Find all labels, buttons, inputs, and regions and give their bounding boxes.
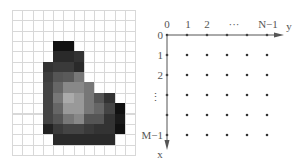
sample-point — [186, 114, 189, 117]
sample-point — [266, 94, 269, 97]
sample-point — [226, 114, 229, 117]
row-label-ellipsis: ⋮ — [150, 91, 161, 103]
sample-point — [266, 54, 269, 57]
sample-point — [266, 134, 269, 137]
sample-point — [186, 54, 189, 57]
sample-point — [186, 94, 189, 97]
sample-point — [246, 114, 249, 117]
row-label-m-minus-1: M−1 — [142, 129, 163, 141]
y-axis-arrow-icon — [274, 33, 284, 38]
sample-point — [206, 134, 209, 137]
sample-point — [246, 94, 249, 97]
col-label-1: 1 — [185, 18, 191, 30]
sample-point — [226, 74, 229, 77]
sample-point — [206, 54, 209, 57]
sample-point — [246, 54, 249, 57]
x-axis-arrow-icon — [165, 140, 170, 150]
sample-point — [266, 114, 269, 117]
sample-point — [186, 134, 189, 137]
row-label-0: 0 — [158, 29, 164, 41]
sample-point — [206, 114, 209, 117]
x-axis-label: x — [157, 148, 163, 160]
sample-point — [206, 74, 209, 77]
sample-points — [166, 34, 269, 137]
sample-point — [266, 74, 269, 77]
col-label-n-minus-1: N−1 — [258, 18, 278, 30]
sample-point — [226, 134, 229, 137]
col-label-2: 2 — [204, 18, 210, 30]
sample-point — [246, 74, 249, 77]
sample-point — [226, 94, 229, 97]
sample-point — [246, 134, 249, 137]
col-label-0: 0 — [164, 18, 170, 30]
row-label-1: 1 — [158, 49, 164, 61]
sample-point — [226, 54, 229, 57]
coordinate-diagram: 0 1 2 ··· N−1 y 0 1 2 ⋮ M−1 x — [0, 0, 296, 162]
row-label-2: 2 — [158, 69, 164, 81]
sample-point — [206, 94, 209, 97]
sample-point — [186, 74, 189, 77]
col-label-ellipsis: ··· — [229, 18, 240, 30]
y-axis-label: y — [286, 20, 292, 32]
